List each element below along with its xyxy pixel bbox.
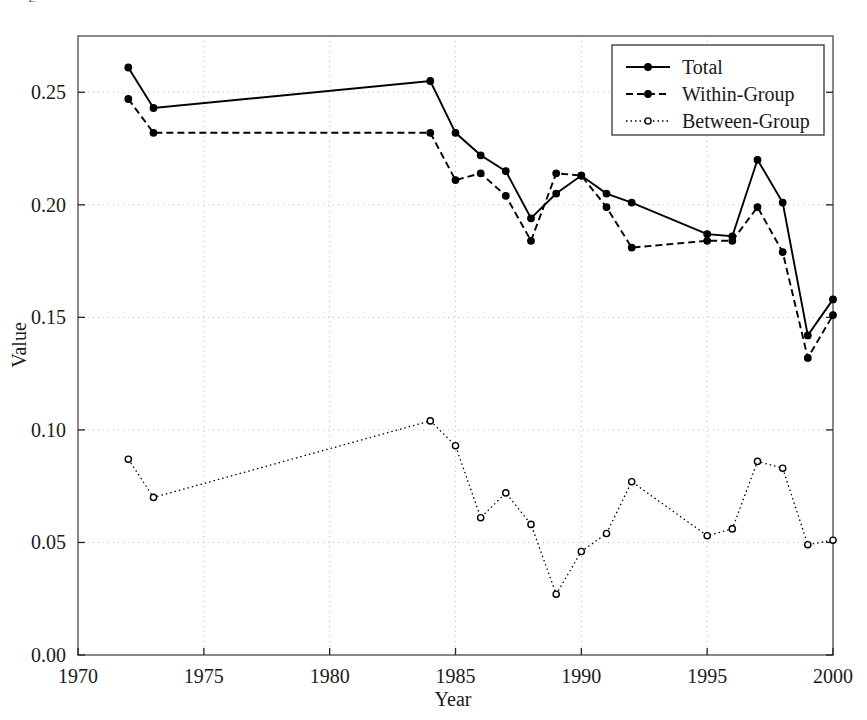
data-point-marker [503, 193, 510, 200]
x-tick-label: 1980 [310, 665, 350, 687]
data-point-marker [528, 238, 535, 245]
data-point-marker [704, 231, 711, 238]
chart-legend[interactable]: TotalWithin-GroupBetween-Group [612, 45, 824, 135]
legend-marker [645, 118, 651, 124]
x-tick-label: 1990 [561, 665, 601, 687]
data-point-marker [805, 355, 812, 362]
series-line-within-group [128, 99, 833, 358]
data-point-marker [603, 530, 609, 536]
data-point-marker [125, 64, 132, 71]
data-point-marker [528, 215, 535, 222]
data-point-marker [830, 537, 836, 543]
y-tick-labels: 0.000.050.100.150.200.25 [31, 81, 66, 666]
legend-label-within-group[interactable]: Within-Group [682, 83, 795, 106]
y-tick-label: 0.05 [31, 531, 66, 553]
data-point-marker [478, 515, 484, 521]
data-point-marker [779, 249, 786, 256]
series-line-between-group [128, 421, 833, 594]
y-tick-label: 0.10 [31, 419, 66, 441]
data-point-marker [452, 443, 458, 449]
data-point-marker [578, 172, 585, 179]
data-point-marker [477, 170, 484, 177]
data-point-marker [553, 170, 560, 177]
data-point-marker [805, 542, 811, 548]
x-tick-label: 2000 [813, 665, 853, 687]
data-point-marker [628, 199, 635, 206]
data-point-marker [150, 130, 157, 137]
data-point-marker [628, 244, 635, 251]
data-series [125, 64, 836, 597]
data-point-marker [452, 130, 459, 137]
data-point-marker [754, 204, 761, 211]
data-point-marker [754, 458, 760, 464]
legend-marker [645, 91, 652, 98]
x-tick-label: 1970 [58, 665, 98, 687]
x-axis-label: Year [435, 688, 472, 710]
data-point-marker [125, 96, 132, 103]
data-point-marker [830, 296, 837, 303]
y-tick-label: 0.20 [31, 194, 66, 216]
legend-label-between-group[interactable]: Between-Group [682, 110, 810, 133]
data-point-marker [503, 168, 510, 175]
y-tick-label: 0.15 [31, 306, 66, 328]
data-point-marker [805, 332, 812, 339]
data-point-marker [830, 312, 837, 319]
data-point-marker [704, 238, 711, 245]
data-point-marker [125, 456, 131, 462]
data-point-marker [427, 130, 434, 137]
data-point-marker [704, 533, 710, 539]
y-tick-label: 0.00 [31, 644, 66, 666]
data-point-marker [754, 157, 761, 164]
data-point-marker [528, 521, 534, 527]
data-point-marker [503, 490, 509, 496]
x-tick-label: 1985 [436, 665, 476, 687]
data-point-marker [779, 199, 786, 206]
line-chart-svg: 1970197519801985199019952000 0.000.050.1… [0, 0, 867, 720]
data-point-marker [729, 238, 736, 245]
y-axis-label: Value [8, 322, 30, 368]
data-point-marker [603, 190, 610, 197]
data-point-marker [553, 591, 559, 597]
x-tick-labels: 1970197519801985199019952000 [58, 665, 853, 687]
data-point-marker [729, 526, 735, 532]
data-point-marker [578, 548, 584, 554]
data-point-marker [780, 465, 786, 471]
x-tick-label: 1975 [184, 665, 224, 687]
data-point-marker [477, 152, 484, 159]
data-point-marker [150, 105, 157, 112]
clipped-title-text: g [28, 0, 848, 2]
data-point-marker [150, 494, 156, 500]
y-tick-label: 0.25 [31, 81, 66, 103]
legend-label-total[interactable]: Total [682, 56, 723, 78]
data-point-marker [427, 418, 433, 424]
data-point-marker [629, 479, 635, 485]
x-tick-label: 1995 [687, 665, 727, 687]
chart-figure: g 1970197519801985199019952000 0.000.050… [0, 0, 867, 720]
data-point-marker [553, 190, 560, 197]
data-point-marker [427, 78, 434, 85]
data-point-marker [603, 204, 610, 211]
legend-marker [645, 64, 652, 71]
data-point-marker [452, 177, 459, 184]
